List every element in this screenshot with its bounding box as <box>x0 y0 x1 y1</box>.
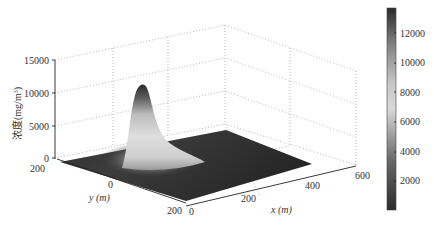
x-axis-label: x (m) <box>270 204 292 216</box>
colorbar-tick-12000: 12000 <box>400 28 425 39</box>
surface-chart: 15000 10000 5000 0 200 0 200 0 200 400 6… <box>0 0 434 226</box>
y-tick-0: 0 <box>108 179 113 190</box>
z-tick-10000: 10000 <box>24 88 49 99</box>
surface <box>60 85 312 201</box>
colorbar-tick-2000: 2000 <box>400 175 420 186</box>
colorbar-tick-10000: 10000 <box>400 57 425 68</box>
colorbar-tick-4000: 4000 <box>400 146 420 157</box>
z-tick-5000: 5000 <box>29 121 49 132</box>
colorbar-tick-6000: 6000 <box>400 116 420 127</box>
z-axis-label: 浓度(mg/m3) <box>11 87 24 140</box>
colorbar: 12000 10000 8000 6000 4000 2000 <box>387 8 425 210</box>
y-tick-200-left: 200 <box>30 163 45 174</box>
y-tick-200-right: 200 <box>167 205 182 216</box>
colorbar-tick-8000: 8000 <box>400 87 420 98</box>
z-tick-15000: 15000 <box>24 55 49 66</box>
y-axis-label: y (m) <box>88 192 110 204</box>
x-tick-400: 400 <box>305 180 320 191</box>
x-tick-600: 600 <box>355 170 370 181</box>
x-tick-0: 0 <box>189 206 194 217</box>
x-tick-200: 200 <box>241 193 256 204</box>
